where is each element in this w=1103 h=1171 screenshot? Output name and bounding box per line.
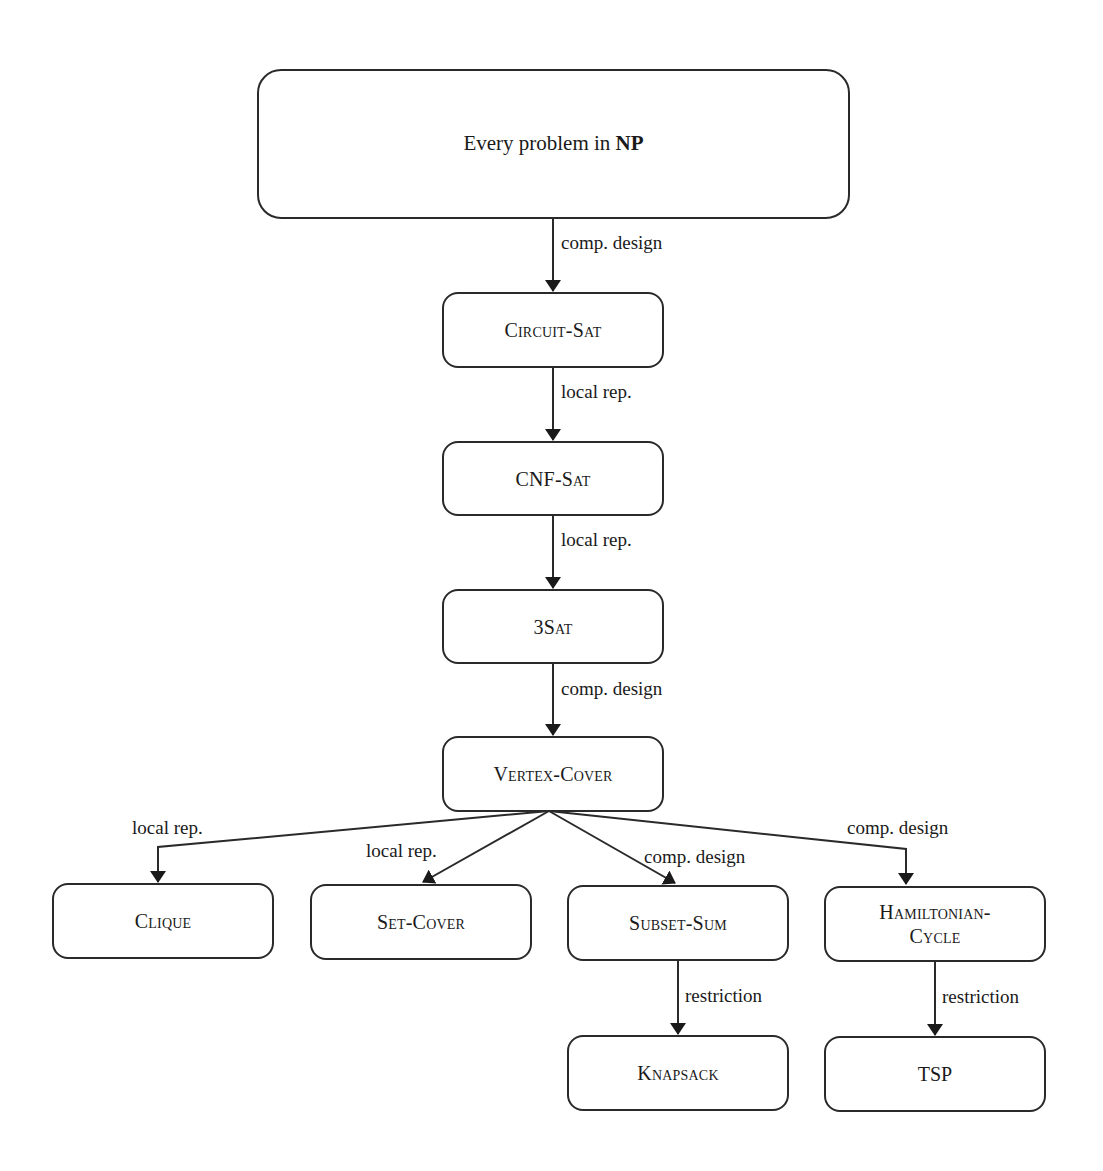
node-subset-sum: Subset-Sum xyxy=(567,885,789,961)
node-label: Circuit-Sat xyxy=(504,318,601,342)
edge-label-vc-setcover: local rep. xyxy=(366,840,437,862)
node-tsp: TSP xyxy=(824,1036,1046,1112)
node-label: CNF-Sat xyxy=(515,467,590,491)
node-label: Subset-Sum xyxy=(629,911,727,935)
node-cnf-sat: CNF-Sat xyxy=(442,441,664,516)
edge-label-3sat-vc: comp. design xyxy=(561,678,662,700)
edge-label-vc-hamiltonian: comp. design xyxy=(847,817,948,839)
node-label: Vertex-Cover xyxy=(493,762,612,786)
root-np-emphasis: NP xyxy=(616,131,644,156)
node-clique: Clique xyxy=(52,883,274,959)
node-vertex-cover: Vertex-Cover xyxy=(442,736,664,812)
node-label-line2: Cycle xyxy=(910,924,961,948)
node-label: Knapsack xyxy=(637,1061,718,1085)
node-label-line1: Hamiltonian- xyxy=(879,900,990,924)
root-text: Every problem in xyxy=(463,131,615,156)
node-circuit-sat: Circuit-Sat xyxy=(442,292,664,368)
node-label: Set-Cover xyxy=(377,910,465,934)
edge-label-hamiltonian-tsp: restriction xyxy=(942,986,1019,1008)
node-set-cover: Set-Cover xyxy=(310,884,532,960)
edge-label-np-circuit: comp. design xyxy=(561,232,662,254)
edge-label-vc-subsetsum: comp. design xyxy=(644,846,745,868)
node-label: TSP xyxy=(918,1062,952,1086)
node-label: 3Sat xyxy=(533,615,572,639)
edge-label-circuit-cnf: local rep. xyxy=(561,381,632,403)
node-label: Clique xyxy=(135,909,192,933)
edge-label-cnf-3sat: local rep. xyxy=(561,529,632,551)
edge-vc-clique xyxy=(158,811,549,882)
node-3sat: 3Sat xyxy=(442,589,664,664)
node-knapsack: Knapsack xyxy=(567,1035,789,1111)
edge-label-subsetsum-knapsack: restriction xyxy=(685,985,762,1007)
reduction-diagram: Every problem in NP Circuit-Sat CNF-Sat … xyxy=(0,0,1103,1171)
edge-label-vc-clique: local rep. xyxy=(132,817,203,839)
node-every-np-problem: Every problem in NP xyxy=(257,69,850,219)
node-hamiltonian-cycle: Hamiltonian- Cycle xyxy=(824,886,1046,962)
